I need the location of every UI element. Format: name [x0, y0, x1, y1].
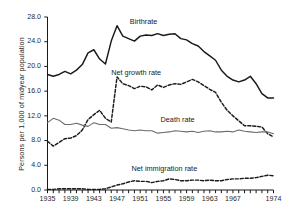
series-line-0: [48, 26, 274, 98]
demographic-rates-chart: Persons per 1,000 of midyear population …: [0, 0, 286, 212]
series-line-3: [48, 175, 274, 189]
series-line-1: [48, 77, 274, 146]
axis-lines: [48, 17, 274, 190]
plot-area: [0, 0, 286, 212]
